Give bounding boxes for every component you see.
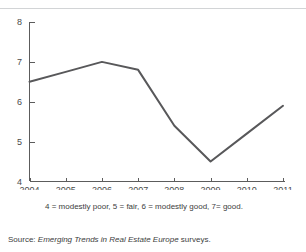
x-tick-label: 2009 [201,185,221,191]
source-tail: surveys. [181,235,211,244]
chart-plot-area: 45678 20042005200620072008200920102011 [0,12,306,190]
x-tick-label: 2004 [19,185,39,191]
y-axis-tick-labels: 45678 [17,17,22,187]
x-axis-tick-marks [31,178,284,182]
top-divider-rule [0,8,306,9]
data-series-line [30,62,284,162]
scale-key-note: 4 = modestly poor, 5 = fair, 6 = modestl… [45,201,295,212]
x-tick-label: 2011 [273,185,292,191]
x-tick-label: 2006 [92,185,112,191]
y-tick-label: 6 [17,97,22,107]
x-tick-label: 2010 [237,185,257,191]
x-tick-label: 2007 [128,185,148,191]
y-tick-label: 5 [17,137,22,147]
chart-figure: 45678 20042005200620072008200920102011 4… [0,0,306,252]
x-tick-label: 2008 [164,185,184,191]
x-axis-tick-labels: 20042005200620072008200920102011 [19,185,292,191]
y-tick-label: 7 [17,57,22,67]
y-tick-label: 8 [17,17,22,27]
source-label: Source: [8,235,36,244]
line-chart-svg: 45678 20042005200620072008200920102011 [0,12,306,190]
source-credit: Source: Emerging Trends in Real Estate E… [8,234,300,245]
x-tick-label: 2005 [56,185,76,191]
source-publication-title: Emerging Trends in Real Estate Europe [38,235,179,244]
